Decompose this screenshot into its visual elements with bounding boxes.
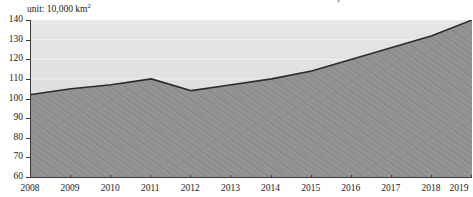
y-tick-label: 120 bbox=[9, 55, 23, 65]
x-tick-label: 2010 bbox=[101, 183, 120, 193]
x-tick-label: 2012 bbox=[181, 183, 200, 193]
x-tick-mark bbox=[271, 175, 272, 178]
y-tick-label: 110 bbox=[9, 74, 23, 84]
unit-label-exponent: 2 bbox=[87, 2, 90, 9]
y-tick-label: 70 bbox=[14, 153, 24, 163]
x-tick-mark bbox=[311, 175, 312, 178]
x-tick-label: 2015 bbox=[301, 183, 320, 193]
x-tick-mark bbox=[190, 175, 191, 178]
plot-area bbox=[30, 20, 472, 178]
chart-page: Improved Grassland Areas unit: 10,000 km… bbox=[0, 0, 473, 197]
chart-title: Improved Grassland Areas bbox=[326, 0, 437, 2]
x-axis: 2008200920102011201220132014201520162017… bbox=[0, 178, 473, 197]
x-tick-label: 2017 bbox=[381, 183, 400, 193]
y-tick-label: 130 bbox=[9, 35, 23, 45]
unit-label: unit: 10,000 km2 bbox=[27, 2, 91, 14]
x-tick-label: 2011 bbox=[141, 183, 160, 193]
x-tick-mark bbox=[110, 175, 111, 178]
x-tick-mark bbox=[70, 175, 71, 178]
y-axis: 60708090100110120130140 bbox=[0, 0, 30, 197]
x-tick-mark bbox=[431, 175, 432, 178]
x-tick-mark bbox=[471, 175, 472, 178]
y-tick-label: 100 bbox=[9, 94, 23, 104]
x-tick-label: 2014 bbox=[261, 183, 280, 193]
y-tick-label: 90 bbox=[14, 113, 24, 123]
y-tick-label: 80 bbox=[14, 133, 24, 143]
x-tick-mark bbox=[351, 175, 352, 178]
x-tick-mark bbox=[391, 175, 392, 178]
unit-label-text: unit: 10,000 km bbox=[27, 4, 87, 14]
x-tick-label: 2013 bbox=[221, 183, 240, 193]
x-tick-label: 2009 bbox=[61, 183, 80, 193]
x-tick-mark bbox=[230, 175, 231, 178]
area-chart-svg bbox=[31, 20, 472, 177]
x-tick-label: 2019 bbox=[450, 183, 469, 193]
x-tick-label: 2018 bbox=[421, 183, 440, 193]
x-tick-label: 2016 bbox=[341, 183, 360, 193]
x-tick-mark bbox=[30, 175, 31, 178]
y-tick-label: 140 bbox=[9, 15, 23, 25]
x-tick-label: 2008 bbox=[21, 183, 40, 193]
x-tick-mark bbox=[150, 175, 151, 178]
